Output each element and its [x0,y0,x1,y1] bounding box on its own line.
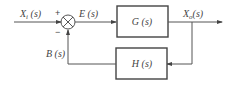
plus-sign: + [55,8,60,18]
input-label: Xi (s) [19,8,42,21]
output-label: Xo(s) [182,8,204,21]
forward-block-label: G (s) [132,16,153,28]
block-diagram: Xi (s) + − E (s) G (s) Xo(s) H (s) B (s) [0,0,232,87]
diagram-canvas: Xi (s) + − E (s) G (s) Xo(s) H (s) B (s) [0,0,232,87]
error-label: E (s) [78,8,99,20]
feedback-label: B (s) [46,48,66,60]
minus-sign: − [55,27,60,37]
summing-junction [61,15,75,29]
feedback-block-label: H (s) [131,58,153,70]
